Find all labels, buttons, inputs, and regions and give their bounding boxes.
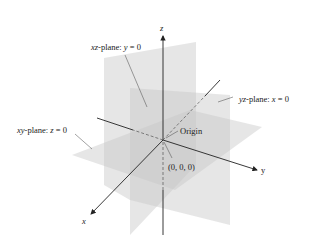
coordinate-planes-diagram: z y x xz-plane: y = 0 yz-plane: x = 0 xy… (0, 0, 323, 252)
xy-plane-leader (75, 134, 92, 149)
x-axis-label: x (81, 216, 86, 226)
yz-plane-label: yz-plane: x = 0 (238, 94, 289, 104)
xz-plane-label: xz-plane: y = 0 (90, 42, 141, 52)
origin-label: Origin (180, 126, 203, 136)
xy-plane-label: xy-plane: z = 0 (16, 125, 67, 135)
x-axis-negative (205, 80, 220, 96)
diagram-canvas: z y x xz-plane: y = 0 yz-plane: x = 0 xy… (0, 0, 323, 252)
z-axis-label: z (159, 23, 164, 33)
y-axis-label: y (261, 165, 266, 175)
origin-coords-label: (0, 0, 0) (168, 162, 195, 172)
